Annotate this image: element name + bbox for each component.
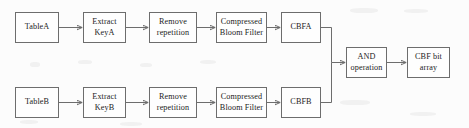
node-label: CBFB <box>290 97 311 108</box>
edge-cbfa-and <box>321 28 345 63</box>
node-label: Extract KeyA <box>92 17 116 38</box>
node-extract-keyB: Extract KeyB <box>83 87 126 118</box>
scan-artifact <box>410 112 436 116</box>
node-label: CBFA <box>290 22 311 33</box>
scan-artifact <box>404 9 428 13</box>
node-and-operation: AND operation <box>346 47 387 78</box>
scan-artifact <box>120 122 142 126</box>
node-label: Compressed Bloom Filter <box>220 17 263 38</box>
node-extract-keyA: Extract KeyA <box>83 12 126 43</box>
scan-artifact <box>30 62 40 67</box>
scan-artifact <box>200 60 216 64</box>
node-compressed-bloom-filter-b: Compressed Bloom Filter <box>216 87 267 118</box>
scan-artifact <box>340 100 370 105</box>
node-tableB: TableB <box>15 87 59 118</box>
node-tableA: TableA <box>15 12 59 43</box>
node-cbfb: CBFB <box>281 87 321 118</box>
node-label: CBF bit array <box>415 52 442 73</box>
edge-cbfb-and <box>321 63 332 103</box>
node-label: AND operation <box>351 52 383 73</box>
node-cbf-bit-array: CBF bit array <box>407 47 450 78</box>
node-remove-repetition-b: Remove repetition <box>149 87 197 118</box>
node-label: TableA <box>25 22 50 33</box>
node-remove-repetition-a: Remove repetition <box>149 12 197 43</box>
node-label: Remove repetition <box>157 92 189 113</box>
node-cbfa: CBFA <box>281 12 321 43</box>
scan-artifact <box>20 120 38 124</box>
node-label: TableB <box>25 97 49 108</box>
node-compressed-bloom-filter-a: Compressed Bloom Filter <box>216 12 267 43</box>
scan-artifact <box>78 60 92 64</box>
scan-artifact <box>140 63 152 67</box>
node-label: Extract KeyB <box>92 92 116 113</box>
flowchart-diagram: TableA Extract KeyA Remove repetition Co… <box>0 0 469 128</box>
node-label: Compressed Bloom Filter <box>220 92 263 113</box>
scan-artifact <box>350 8 378 13</box>
node-label: Remove repetition <box>157 17 189 38</box>
